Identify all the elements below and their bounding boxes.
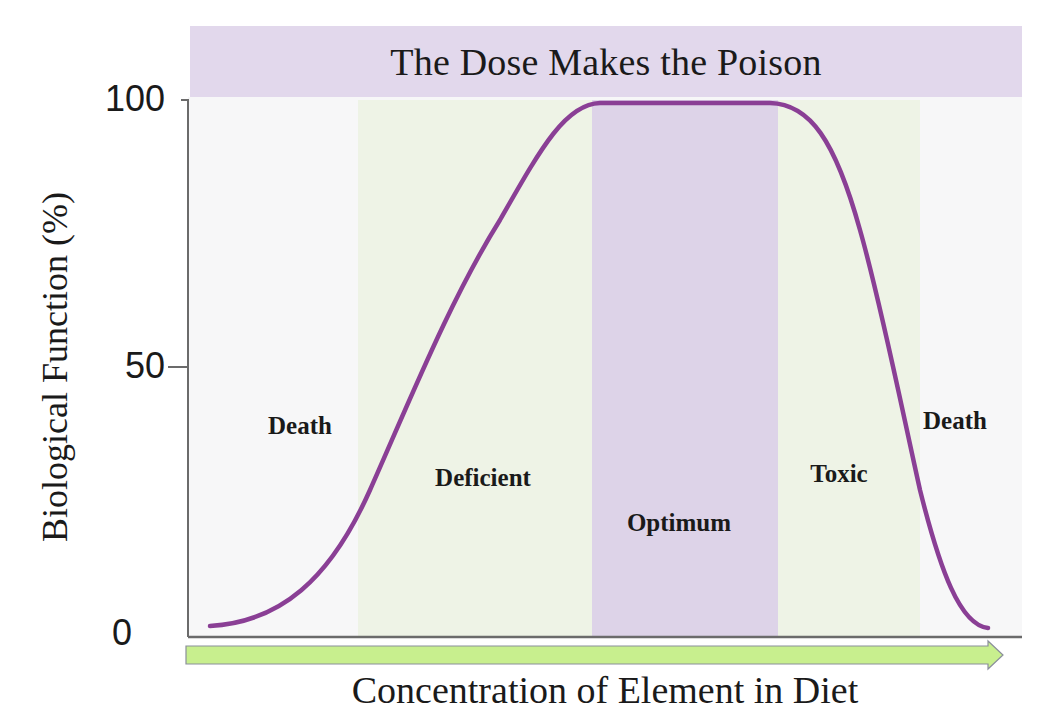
- y-tick-label-0: 0: [52, 612, 132, 654]
- region-label-toxic: Toxic: [810, 460, 867, 488]
- toxic-band: [778, 100, 920, 637]
- optimum-band: [592, 100, 778, 637]
- region-label-optimum: Optimum: [627, 509, 731, 537]
- region-label-deficient: Deficient: [435, 464, 531, 492]
- x-axis-label: Concentration of Element in Diet: [352, 668, 859, 712]
- deficient-band: [358, 100, 592, 637]
- y-axis-label: Biological Function (%): [34, 192, 76, 542]
- y-tick-label-50: 50: [85, 345, 165, 387]
- region-label-death-right: Death: [923, 407, 987, 435]
- concentration-arrow-icon: [186, 641, 1003, 669]
- region-label-death-left: Death: [268, 412, 332, 440]
- y-tick-label-100: 100: [85, 78, 165, 120]
